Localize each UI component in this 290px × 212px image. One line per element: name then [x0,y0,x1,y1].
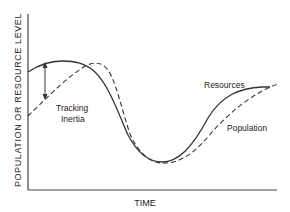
y-axis-label: POPULATION OR RESOURCE LEVEL [13,13,23,187]
inertia-label: Inertia [61,114,85,124]
population-label: Population [227,123,267,133]
x-axis-label: TIME [134,198,156,208]
tracking-inertia-arrow [43,62,48,100]
chart: Tracking Inertia Resources Population TI… [0,0,290,212]
resources-label: Resources [204,80,245,90]
tracking-label: Tracking [56,103,89,113]
